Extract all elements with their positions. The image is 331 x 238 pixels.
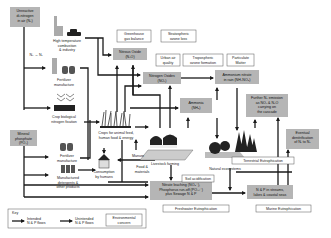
concern-ozone-loss: Stratospheric ozone loss [161, 30, 196, 42]
nitrous-oxide-line2: (N₂O) [125, 55, 134, 59]
further-emission-line4: the cascade [257, 110, 276, 114]
bnf-label-2: nitrogen fixation [51, 120, 76, 124]
nitrogen-oxides-line1: Nitrogen Oxides [149, 74, 175, 78]
ammonia-line1: Ammonia [188, 101, 203, 105]
fertilizer-p-label-2: manufacture [57, 159, 77, 163]
soil-acid-label: Soil acidification [185, 177, 211, 181]
farm-icon [140, 135, 193, 161]
leaching-line1: Nitrate leaching (NO₃⁻), [162, 183, 200, 187]
ammonia-line2: (NH₃) [191, 106, 200, 110]
urban-air-line2: quality [163, 61, 174, 65]
detergents-label-1: Manufactured [57, 176, 79, 180]
marine-eutro-label: Marine Eutrophication [266, 207, 301, 211]
tropospheric-line2: ozone formation [190, 61, 216, 65]
forest-icon [205, 130, 257, 158]
fertilizer-p-label-1: Fertilizer [60, 154, 75, 158]
unreactive-n2-line3: in air (N₂) [17, 19, 32, 23]
natural-ecosystems-process: Natural ecosystems [205, 130, 257, 171]
combustion-label-1: High temperature [53, 39, 81, 43]
urban-air-line1: Urban air [161, 56, 177, 60]
ammonium-nitrate-box: Ammonium nitrate in rain (NH₄NO₃) [215, 70, 259, 84]
fertilizer-n-process: Fertilizer manufacture [52, 58, 75, 87]
nitrous-oxide-box: Nitrous Oxide (N₂O) [113, 48, 147, 60]
ammonium-nitrate-line2: in rain (NH₄NO₃) [224, 78, 251, 82]
concern-tropospheric: Tropospheric ozone formation [183, 54, 223, 66]
mineral-phosphate-line2: phosphate [15, 137, 32, 141]
nitrogen-oxides-box: Nitrogen Oxides (NOₓ) [143, 72, 181, 84]
detergents-process: Manufactured detergents & other products [57, 165, 80, 189]
nitrous-oxide-line1: Nitrous Oxide [119, 50, 141, 54]
nitrogen-cascade-diagram: Unreactive di-nitrogen in air (N₂) N₂ → … [0, 0, 331, 238]
fertilizer-bags-icon [60, 143, 73, 151]
ozone-loss-line1: Stratospheric [168, 32, 189, 36]
car-icon [67, 29, 81, 36]
consumption-label-2: by humans [95, 175, 113, 179]
crops-process: Crops for animal feed, human food & ener… [98, 110, 133, 140]
key-title: Key [12, 211, 18, 215]
factory-icon [54, 16, 63, 36]
greenhouse-line1: Greenhouse [124, 32, 144, 36]
streams-line2: lakes & coastal seas [254, 193, 287, 197]
mineral-phosphate-line3: (PO₄) [19, 141, 28, 145]
key-intended-line2: N & P flows [27, 221, 46, 225]
denitrification-line1: Eventual [296, 131, 310, 135]
terrestrial-eutro-label: Terrestrial Eutrophication [243, 159, 283, 163]
tropospheric-line1: Tropospheric [193, 56, 214, 60]
detergent-containers-icon [61, 165, 75, 173]
bnf-process: Crop biological nitrogen fixation [51, 94, 76, 124]
key-intended-line1: Intended [27, 217, 41, 221]
freshwater-eutro-label: Freshwater Eutrophication [175, 207, 217, 211]
greenhouse-line2: gas balance [124, 37, 143, 41]
further-emission-line3: carrying on [258, 105, 276, 109]
concern-soil-acidification: Soil acidification [182, 175, 214, 182]
food-materials-label-1: Food & [136, 165, 148, 169]
further-emission-line2: as NOₓ & N₂O [256, 101, 279, 105]
crop-field-icon [54, 94, 75, 111]
streams-line1: N & P in streams, [256, 188, 284, 192]
combustion-process: High temperature combustion & industry [53, 16, 81, 52]
key-concern-line2: concern [118, 221, 131, 225]
natural-ecosystems-label: Natural ecosystems [209, 167, 241, 171]
unreactive-n2-box: Unreactive di-nitrogen in air (N₂) [10, 7, 40, 27]
key-unintended-line2: N & P flows [75, 221, 94, 225]
ozone-loss-line2: ozone loss [170, 37, 187, 41]
key-concern-line1: Environmental [113, 216, 136, 220]
ammonia-box: Ammonia (NH₃) [180, 98, 212, 113]
streams-box: N & P in streams, lakes & coastal seas [247, 185, 293, 199]
combustion-label-2: combustion [58, 44, 76, 48]
concern-marine-eutrophication: Marine Eutrophication [256, 205, 311, 212]
mineral-phosphate-box: Mineral phosphate (PO₄) [10, 130, 37, 146]
particulate-line2: Matter [235, 61, 246, 65]
fertilizer-p-process: Fertilizer manufacture [57, 143, 77, 163]
denitrification-box: Eventual denitrification of Nᵣ to N₂ [286, 129, 319, 149]
fertilizer-n-label-1: Fertilizer [57, 78, 72, 82]
further-emission-line1: Further N₂ emission [251, 96, 283, 100]
fertilizer-factory-icon [52, 58, 75, 74]
bnf-label-1: Crop biological [52, 115, 76, 119]
ammonium-nitrate-line1: Ammonium nitrate [222, 73, 251, 77]
concern-particulate: Particulate Matter [227, 54, 254, 66]
crops-label-1: Crops for animal feed, [98, 131, 133, 135]
food-materials-label-2: materials [135, 170, 150, 174]
concern-greenhouse: Greenhouse gas balance [117, 30, 151, 42]
nitrogen-oxides-line2: (NOₓ) [158, 79, 167, 83]
n2-to-nr-label: N₂ → Nᵣ [29, 53, 42, 57]
legend-key: Key Intended N & P flows Unintended N & … [8, 209, 146, 228]
key-unintended-line1: Unintended [75, 217, 93, 221]
unreactive-n2-line2: di-nitrogen [17, 14, 34, 18]
concern-terrestrial-eutrophication: Terrestrial Eutrophication [232, 157, 294, 164]
concern-freshwater-eutrophication: Freshwater Eutrophication [163, 205, 229, 212]
fertilizer-n-label-2: manufacture [54, 83, 74, 87]
crops-label-2: human food & energy [99, 136, 134, 140]
livestock-process: Livestock farming Manure Food & material… [132, 135, 193, 174]
concern-urban-air: Urban air quality [156, 54, 180, 66]
unreactive-n2-line1: Unreactive [16, 9, 33, 13]
consumption-process: Consumption by humans [93, 154, 114, 179]
combustion-label-3: & industry [59, 48, 75, 52]
denitrification-line3: of Nᵣ to N₂ [294, 140, 311, 144]
leaching-box: Nitrate leaching (NO₃⁻), Phosphorus run-… [150, 181, 212, 200]
house-icon [98, 154, 110, 168]
detergents-label-3: other products [57, 185, 80, 189]
leaching-line3: plus Sewage N & P [166, 192, 198, 196]
particulate-line1: Particulate [232, 56, 249, 60]
